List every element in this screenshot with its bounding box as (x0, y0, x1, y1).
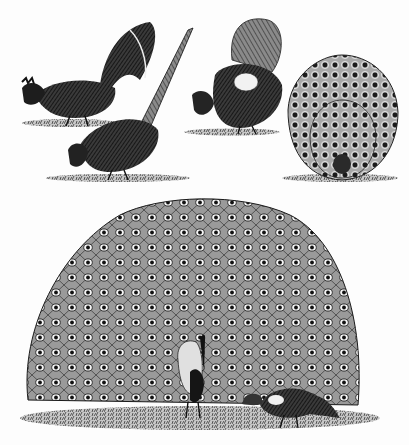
engraving-illustration (0, 0, 409, 445)
rooster-figure (22, 22, 155, 127)
peacock-figure (20, 199, 380, 430)
peacock-pheasant-figure (282, 55, 398, 182)
bird-engraving-svg (0, 0, 409, 445)
grouse-figure (184, 19, 282, 136)
